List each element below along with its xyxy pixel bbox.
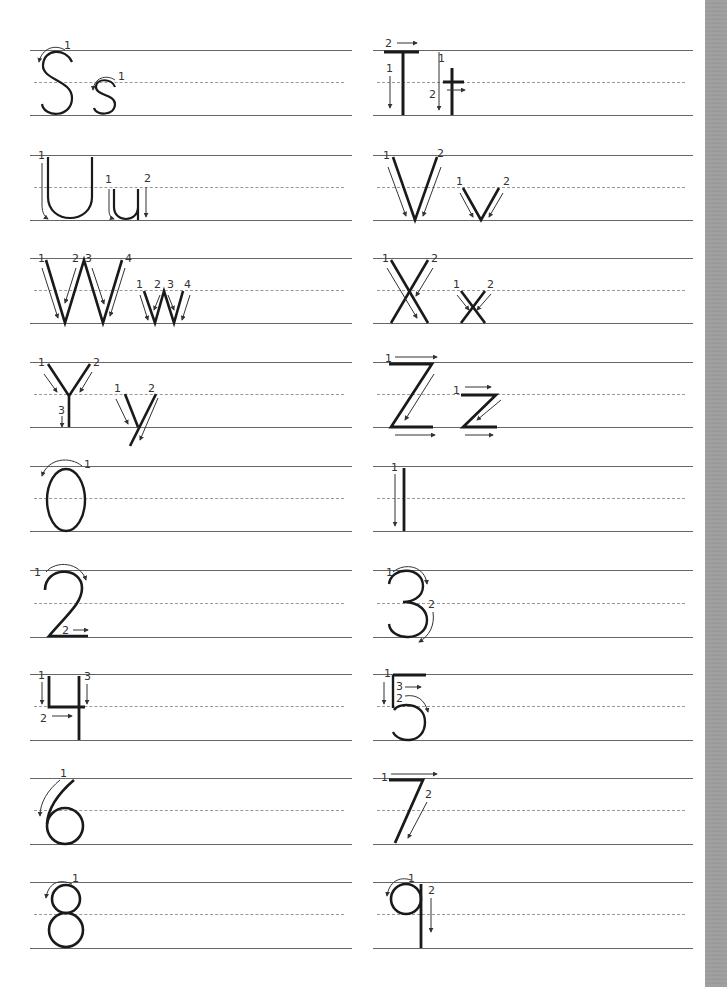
svg-text:2: 2	[503, 175, 510, 188]
svg-text:3: 3	[58, 404, 65, 417]
practice-row-Tt: Tt 2 1 1 2	[373, 40, 693, 150]
svg-text:2: 2	[148, 382, 155, 395]
svg-text:2: 2	[431, 252, 438, 265]
svg-text:3: 3	[85, 252, 92, 265]
practice-row-Uu: Uu 1 1 2	[30, 145, 352, 255]
practice-row-Xx: Xx 1 2 1 2	[373, 248, 693, 358]
svg-text:2: 2	[154, 278, 161, 291]
svg-text:1: 1	[453, 384, 460, 397]
svg-text:1: 1	[383, 149, 390, 162]
svg-text:1: 1	[38, 356, 45, 369]
svg-text:2: 2	[425, 788, 432, 801]
scanned-page-edge	[705, 0, 727, 987]
letter-model-Ss: 1 1	[30, 40, 352, 154]
svg-text:4: 4	[184, 278, 191, 291]
letter-model-Uu: 1 1 2	[30, 145, 352, 259]
svg-text:1: 1	[453, 278, 460, 291]
digit-model-9: 1 2	[373, 872, 693, 986]
digit-model-7: 1 2	[373, 768, 693, 882]
practice-row-0: 0 1	[30, 456, 352, 566]
practice-row-5: 5 1 3 2	[373, 664, 693, 774]
digit-model-0: 1	[30, 456, 352, 570]
svg-text:1: 1	[38, 149, 45, 162]
practice-row-Ss: Ss 1 1	[30, 40, 352, 150]
svg-text:1: 1	[38, 669, 45, 682]
practice-row-4: 4 1 3 2	[30, 664, 352, 774]
practice-row-8: 8 1	[30, 872, 352, 982]
svg-text:1: 1	[408, 872, 415, 885]
digit-model-6: 1	[30, 768, 352, 882]
svg-text:4: 4	[125, 252, 132, 265]
svg-text:1: 1	[386, 566, 393, 579]
svg-text:1: 1	[456, 175, 463, 188]
practice-row-3: 3 1 2	[373, 560, 693, 670]
practice-row-Ww: Ww 1 2 3 4 1 2 3 4	[30, 248, 352, 358]
svg-text:1: 1	[391, 461, 398, 474]
svg-text:2: 2	[429, 88, 436, 101]
practice-row-Yy: Yy 1 2 3 1 2	[30, 352, 352, 462]
letter-model-Xx: 1 2 1 2	[373, 248, 693, 362]
stroke-number: 1	[118, 70, 125, 83]
letter-model-Tt: 2 1 1 2	[373, 40, 693, 154]
svg-text:1: 1	[381, 771, 388, 784]
svg-text:2: 2	[62, 624, 69, 637]
svg-text:2: 2	[144, 172, 151, 185]
svg-text:2: 2	[487, 278, 494, 291]
digit-model-2: 1 2	[30, 560, 352, 674]
svg-text:1: 1	[382, 252, 389, 265]
practice-row-1: 1 1	[373, 456, 693, 566]
digit-model-5: 1 3 2	[373, 664, 693, 778]
practice-row-2: 2 1 2	[30, 560, 352, 670]
svg-text:1: 1	[34, 566, 41, 579]
practice-row-9: 9 1 2	[373, 872, 693, 982]
worksheet-page: Ss 1 1 Tt 2 1	[0, 0, 705, 987]
svg-text:2: 2	[428, 598, 435, 611]
practice-row-6: 6 1	[30, 768, 352, 878]
svg-text:1: 1	[136, 278, 143, 291]
svg-text:3: 3	[167, 278, 174, 291]
svg-text:2: 2	[72, 252, 79, 265]
digit-model-3: 1 2	[373, 560, 693, 674]
svg-text:2: 2	[396, 692, 403, 705]
svg-text:1: 1	[385, 352, 392, 365]
letter-model-Zz: 1 1	[373, 352, 693, 466]
svg-text:2: 2	[40, 712, 47, 725]
svg-text:1: 1	[386, 62, 393, 75]
svg-text:3: 3	[84, 670, 91, 683]
practice-row-7: 7 1 2	[373, 768, 693, 878]
svg-text:2: 2	[385, 37, 392, 50]
svg-text:1: 1	[72, 872, 79, 885]
svg-text:1: 1	[105, 173, 112, 186]
svg-text:2: 2	[437, 147, 444, 160]
svg-text:1: 1	[114, 382, 121, 395]
digit-model-8: 1	[30, 872, 352, 986]
digit-model-4: 1 3 2	[30, 664, 352, 778]
digit-model-1: 1	[373, 456, 693, 570]
svg-text:1: 1	[60, 767, 67, 780]
practice-row-Vv: Vv 1 2 1 2	[373, 145, 693, 255]
letter-model-Yy: 1 2 3 1 2	[30, 352, 352, 466]
svg-text:1: 1	[38, 252, 45, 265]
letter-model-Vv: 1 2 1 2	[373, 145, 693, 259]
svg-text:1: 1	[384, 667, 391, 680]
svg-text:1: 1	[84, 458, 91, 471]
stroke-number: 1	[64, 39, 71, 52]
letter-model-Ww: 1 2 3 4 1 2 3 4	[30, 248, 352, 362]
svg-text:2: 2	[428, 884, 435, 897]
svg-text:2: 2	[93, 356, 100, 369]
practice-row-Zz: Zz 1 1	[373, 352, 693, 462]
